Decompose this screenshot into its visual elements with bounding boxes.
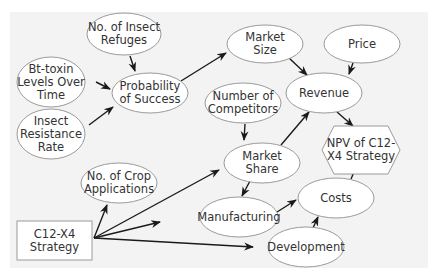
node-refuges	[87, 13, 161, 55]
edge-manufacturing-to-costs	[277, 200, 296, 212]
edge-btoxin-to-probability	[96, 82, 110, 89]
edge-refuges-to-probability	[130, 56, 135, 71]
edge-market_size-to-revenue	[288, 57, 307, 75]
node-costs	[298, 178, 374, 218]
node-development	[268, 227, 344, 267]
edge-revenue-to-npv	[337, 112, 353, 126]
node-layer	[17, 13, 400, 267]
edge-market_share-to-manufacturing	[242, 181, 250, 196]
edge-strategy-to-development	[94, 238, 253, 247]
node-price	[324, 25, 400, 63]
edge-price-to-revenue	[349, 63, 353, 74]
edge-development-to-costs	[313, 217, 318, 228]
node-manufacturing	[200, 197, 278, 237]
edge-resistance-to-probability	[89, 107, 113, 125]
edge-market_share-to-revenue	[281, 112, 309, 145]
node-crop-apps	[81, 163, 157, 203]
node-resistance	[17, 109, 85, 159]
node-revenue	[286, 73, 362, 113]
edge-strategy-to-crop_apps	[94, 205, 107, 238]
node-market-share	[224, 143, 300, 183]
node-market-size	[227, 25, 303, 63]
diagram-graphics	[0, 0, 434, 280]
node-competitors	[205, 83, 281, 123]
node-strategy	[17, 221, 92, 260]
edge-competitors-to-market_share	[244, 124, 245, 140]
edge-probability-to-market_size	[181, 53, 226, 81]
edge-strategy-to-manufacturing	[94, 222, 160, 238]
influence-diagram: No. of Insect RefugesBt-toxin Levels Ove…	[0, 0, 434, 280]
node-btoxin	[17, 57, 85, 107]
node-probability	[112, 73, 188, 113]
node-npv	[322, 126, 400, 174]
